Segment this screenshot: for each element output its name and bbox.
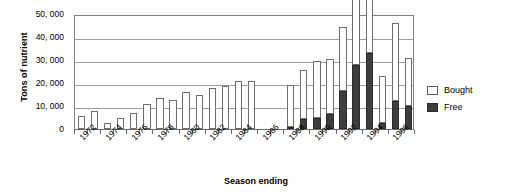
legend-swatch-free-icon — [427, 103, 438, 112]
x-axis-tick-label: 1980 — [182, 123, 202, 143]
legend-label-bought: Bought — [444, 85, 473, 95]
x-axis-tick-label: 1984 — [234, 123, 254, 143]
chart-legend: Bought Free — [427, 83, 503, 117]
x-axis-tick-label: 1974 — [104, 123, 124, 143]
legend-item-free[interactable]: Free — [427, 100, 503, 114]
x-axis-title: Season ending — [186, 176, 326, 186]
x-axis-tick-label: 1986 — [261, 123, 281, 143]
legend-swatch-bought-icon — [427, 86, 438, 95]
x-axis-tick-label: 1982 — [208, 123, 228, 143]
x-axis-tick-label: 1992 — [339, 123, 359, 143]
x-axis-tick-label: 1988 — [287, 123, 307, 143]
x-axis-tick-label: 1990 — [313, 123, 333, 143]
chart-container: Tons of nutrient 50, 00040, 00030, 00020… — [0, 0, 506, 196]
x-axis-tick-label: 1996 — [391, 123, 411, 143]
x-axis-tick-label: 1994 — [365, 123, 385, 143]
x-axis-tick-label: 1976 — [130, 123, 150, 143]
legend-label-free: Free — [444, 102, 463, 112]
x-axis-tick-label: 1978 — [156, 123, 176, 143]
legend-item-bought[interactable]: Bought — [427, 83, 503, 97]
x-axis-tick-label: 1972 — [78, 123, 98, 143]
